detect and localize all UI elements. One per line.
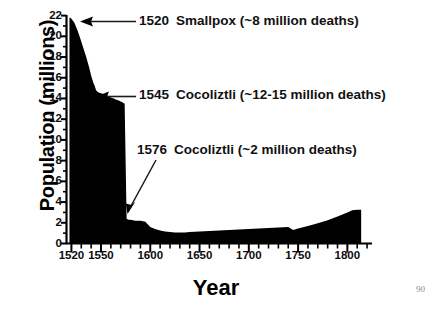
page-number: 90 bbox=[416, 284, 425, 294]
population-chart-figure: Population (millions) 024681012141618202… bbox=[0, 0, 441, 311]
annotation-1576: 1576Cocoliztli (~2 million deaths) bbox=[137, 143, 357, 157]
arrow-1576-icon bbox=[126, 160, 156, 214]
x-tick-label: 1700 bbox=[227, 250, 271, 262]
annotation-1545: 1545Cocoliztli (~12-15 million deaths) bbox=[139, 88, 386, 102]
annotation-1576-year: 1576 bbox=[137, 142, 167, 157]
x-tick-label: 1800 bbox=[325, 250, 369, 262]
x-tick-label: 1750 bbox=[276, 250, 320, 262]
arrow-1520-icon bbox=[80, 17, 136, 27]
annotation-1520-year: 1520 bbox=[139, 13, 169, 28]
annotation-1545-detail: (~12-15 million deaths) bbox=[240, 87, 386, 102]
x-axis-title: Year bbox=[66, 275, 366, 301]
annotation-1520-event: Smallpox bbox=[176, 13, 236, 28]
x-tick-label: 1650 bbox=[178, 250, 222, 262]
annotation-1520: 1520Smallpox (~8 million deaths) bbox=[139, 14, 359, 28]
x-tick-label: 1600 bbox=[128, 250, 172, 262]
annotation-1520-detail: (~8 million deaths) bbox=[240, 13, 359, 28]
x-tick-label: 1550 bbox=[79, 250, 123, 262]
annotation-1576-detail: (~2 million deaths) bbox=[238, 142, 357, 157]
data-area-path bbox=[69, 18, 361, 244]
annotation-1545-event: Cocoliztli bbox=[176, 87, 236, 102]
annotation-1576-event: Cocoliztli bbox=[174, 142, 234, 157]
annotation-1545-year: 1545 bbox=[139, 87, 169, 102]
